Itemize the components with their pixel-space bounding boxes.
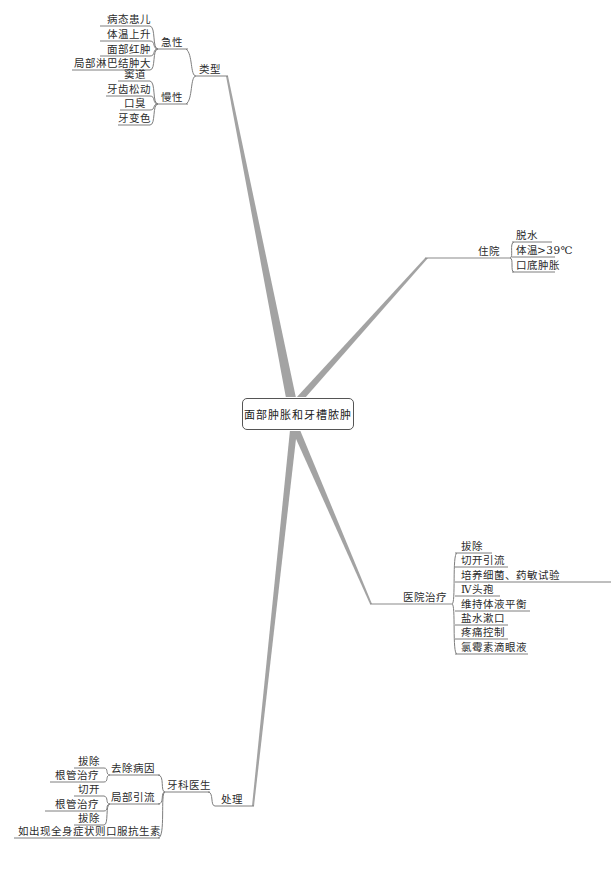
- local-drainage-item[interactable]: 根管治疗: [55, 798, 99, 810]
- treatment-item[interactable]: Ⅳ头孢: [461, 583, 495, 595]
- node-local-drainage[interactable]: 局部引流: [111, 791, 155, 803]
- chronic-item[interactable]: 牙变色: [118, 112, 151, 124]
- chronic-item[interactable]: 牙齿松动: [107, 83, 151, 95]
- treatment-item[interactable]: 疼痛控制: [461, 626, 505, 638]
- hospitalization-item[interactable]: 体温>39℃: [516, 244, 573, 256]
- mindmap-connectors: [0, 0, 611, 880]
- chronic-item[interactable]: 口臭: [124, 97, 146, 109]
- remove-cause-item[interactable]: 拔除: [78, 755, 100, 767]
- node-hospital-treatment[interactable]: 医院治疗: [403, 591, 447, 603]
- treatment-item[interactable]: 拔除: [461, 540, 483, 552]
- branch-hospitalization: [296, 258, 428, 398]
- local-drainage-item[interactable]: 切开: [78, 783, 100, 795]
- branch-management: [252, 430, 297, 806]
- local-drainage-item[interactable]: 拔除: [78, 812, 100, 824]
- node-types[interactable]: 类型: [199, 63, 221, 75]
- chronic-item[interactable]: 窦道: [124, 68, 146, 80]
- treatment-item[interactable]: 维持体液平衡: [461, 598, 527, 610]
- central-topic-label: 面部肿胀和牙槽脓肿: [244, 406, 352, 422]
- acute-item[interactable]: 面部红肿: [107, 43, 151, 55]
- node-chronic[interactable]: 慢性: [161, 91, 183, 103]
- remove-cause-item[interactable]: 根管治疗: [55, 769, 99, 781]
- acute-item[interactable]: 体温上升: [107, 28, 151, 40]
- systemic-antibiotics[interactable]: 如出现全身症状则口服抗生素: [18, 825, 161, 837]
- node-acute[interactable]: 急性: [161, 36, 183, 48]
- treatment-item[interactable]: 盐水漱口: [461, 612, 505, 624]
- treatment-item[interactable]: 培养细菌、药敏试验: [461, 569, 560, 581]
- branch-hospital-treatment: [292, 430, 372, 604]
- hospitalization-item[interactable]: 口底肿胀: [516, 259, 560, 271]
- node-remove-cause[interactable]: 去除病因: [111, 762, 155, 774]
- branch-types: [226, 76, 296, 398]
- node-hospitalization[interactable]: 住院: [478, 245, 500, 257]
- treatment-item[interactable]: 切开引流: [461, 554, 505, 566]
- acute-item[interactable]: 病态患儿: [107, 13, 151, 25]
- treatment-item[interactable]: 氯霉素滴眼液: [461, 641, 527, 653]
- hospitalization-item[interactable]: 脱水: [516, 229, 538, 241]
- node-dentist[interactable]: 牙科医生: [167, 779, 211, 791]
- central-topic[interactable]: 面部肿胀和牙槽脓肿: [242, 398, 354, 430]
- node-management[interactable]: 处理: [221, 793, 243, 805]
